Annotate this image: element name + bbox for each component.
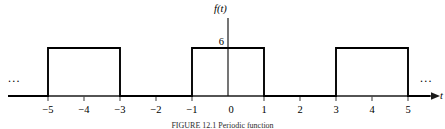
amplitude-label: 6	[219, 37, 224, 48]
x-tick-label: −5	[42, 105, 53, 116]
x-tick-label: 5	[405, 105, 410, 116]
x-tick-label: 4	[369, 105, 374, 116]
x-tick-label: −2	[150, 105, 161, 116]
x-tick-label: −1	[186, 105, 197, 116]
right-continuation-ellipsis: ...	[420, 72, 433, 84]
x-axis-label: t	[440, 91, 443, 102]
square-wave-path	[8, 48, 430, 96]
x-tick-label: 2	[297, 105, 302, 116]
figure-container: f(t) t 6 ... ... −5 −4 −3 −2 −1 0 1 2 3 …	[0, 0, 445, 129]
x-tick-label: 0	[228, 105, 233, 116]
x-tick-label: −3	[114, 105, 125, 116]
x-tick-label: −4	[78, 105, 89, 116]
figure-caption: FIGURE 12.1 Periodic function	[171, 122, 273, 129]
t-axis-arrow-icon	[431, 92, 440, 100]
y-axis-label: f(t)	[214, 4, 227, 15]
x-tick-label: 3	[333, 105, 338, 116]
x-tick-label: 1	[261, 105, 266, 116]
square-wave-plot	[0, 0, 445, 129]
left-continuation-ellipsis: ...	[8, 72, 21, 84]
